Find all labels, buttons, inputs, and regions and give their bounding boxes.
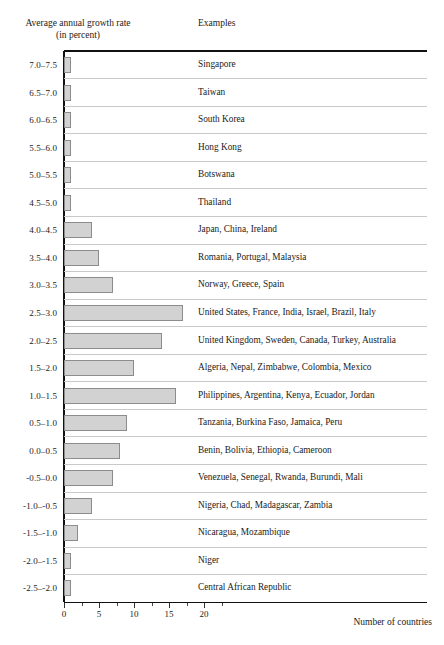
bin-label: 2.0–2.5 <box>0 336 57 346</box>
bin-label: -1.5–-1.0 <box>0 528 57 538</box>
example-countries: Botswana <box>198 169 235 179</box>
bin-label: 2.5–3.0 <box>0 308 57 318</box>
table-row: 5.0–5.5Botswana <box>0 161 444 189</box>
x-tick-major <box>169 603 170 608</box>
example-countries: Singapore <box>198 59 236 69</box>
table-row: 3.5–4.0Romania, Portugal, Malaysia <box>0 244 444 272</box>
table-row: 0.5–1.0Tanzania, Burkina Faso, Jamaica, … <box>0 409 444 437</box>
bin-label: 4.5–5.0 <box>0 198 57 208</box>
x-tick-major <box>99 603 100 608</box>
table-row: 1.0–1.5Philippines, Argentina, Kenya, Ec… <box>0 382 444 410</box>
table-row: -1.0–-0.5Nigeria, Chad, Madagascar, Zamb… <box>0 492 444 520</box>
table-row: 7.0–7.5Singapore <box>0 51 444 79</box>
example-countries: Nigeria, Chad, Madagascar, Zambia <box>198 500 332 510</box>
bin-label: 3.0–3.5 <box>0 280 57 290</box>
bar <box>64 250 99 266</box>
table-row: 0.0–0.5Benin, Bolivia, Ethiopia, Cameroo… <box>0 437 444 465</box>
bar <box>64 470 113 486</box>
bin-label: 0.0–0.5 <box>0 446 57 456</box>
bar <box>64 333 162 349</box>
bar <box>64 415 127 431</box>
x-axis-title: Number of countries <box>353 617 432 627</box>
bar <box>64 222 92 238</box>
example-countries: Benin, Bolivia, Ethiopia, Cameroon <box>198 445 332 455</box>
growth-rate-distribution-figure: Average annual growth rate (in percent) … <box>0 0 444 645</box>
x-tick-label: 15 <box>154 609 184 619</box>
example-countries: Taiwan <box>198 87 225 97</box>
x-tick-minor <box>152 603 153 606</box>
table-row: -1.5–-1.0Nicaragua, Mozambique <box>0 519 444 547</box>
example-countries: Norway, Greece, Spain <box>198 279 284 289</box>
table-row: -2.5–-2.0Central African Republic <box>0 574 444 602</box>
example-countries: Central African Republic <box>198 582 291 592</box>
bin-label: -2.5–-2.0 <box>0 583 57 593</box>
example-countries: Niger <box>198 555 219 565</box>
table-row: -0.5–0.0Venezuela, Senegal, Rwanda, Buru… <box>0 464 444 492</box>
bar <box>64 580 71 596</box>
bin-label: 1.5–2.0 <box>0 363 57 373</box>
bin-label: 3.5–4.0 <box>0 253 57 263</box>
example-countries: United States, France, India, Israel, Br… <box>198 307 376 317</box>
table-row: 2.0–2.5United Kingdom, Sweden, Canada, T… <box>0 327 444 355</box>
bar <box>64 553 71 569</box>
x-tick-minor <box>187 603 188 606</box>
growth-rate-column-header: Average annual growth rate (in percent) <box>8 18 148 41</box>
example-countries: South Korea <box>198 114 245 124</box>
growth-rate-header-line2: (in percent) <box>8 30 148 42</box>
x-axis-line <box>64 602 427 603</box>
example-countries: Romania, Portugal, Malaysia <box>198 252 306 262</box>
bar <box>64 57 71 73</box>
bin-label: 5.0–5.5 <box>0 170 57 180</box>
bar <box>64 443 120 459</box>
bar <box>64 140 71 156</box>
table-row: 5.5–6.0Hong Kong <box>0 134 444 162</box>
x-tick-minor <box>222 603 223 606</box>
x-tick-major <box>204 603 205 608</box>
bin-label: 0.5–1.0 <box>0 418 57 428</box>
bar <box>64 305 183 321</box>
table-row: 6.5–7.0Taiwan <box>0 79 444 107</box>
bar <box>64 277 113 293</box>
bin-label: 4.0–4.5 <box>0 225 57 235</box>
table-row: 6.0–6.5South Korea <box>0 106 444 134</box>
bin-label: -2.0–-1.5 <box>0 556 57 566</box>
example-countries: United Kingdom, Sweden, Canada, Turkey, … <box>198 335 396 345</box>
bar <box>64 85 71 101</box>
x-tick-minor <box>117 603 118 606</box>
example-countries: Thailand <box>198 197 231 207</box>
table-row: 2.5–3.0United States, France, India, Isr… <box>0 299 444 327</box>
bin-label: -1.0–-0.5 <box>0 501 57 511</box>
bin-label: -0.5–0.0 <box>0 473 57 483</box>
bin-label: 1.0–1.5 <box>0 391 57 401</box>
x-tick-minor <box>82 603 83 606</box>
bar <box>64 388 176 404</box>
table-row: 4.0–4.5Japan, China, Ireland <box>0 216 444 244</box>
example-countries: Algeria, Nepal, Zimbabwe, Colombia, Mexi… <box>198 362 372 372</box>
bar <box>64 360 134 376</box>
example-countries: Philippines, Argentina, Kenya, Ecuador, … <box>198 390 375 400</box>
bin-label: 6.0–6.5 <box>0 115 57 125</box>
example-countries: Hong Kong <box>198 142 242 152</box>
bar <box>64 167 71 183</box>
table-row: 4.5–5.0Thailand <box>0 189 444 217</box>
example-countries: Venezuela, Senegal, Rwanda, Burundi, Mal… <box>198 472 363 482</box>
table-row: -2.0–-1.5Niger <box>0 547 444 575</box>
example-countries: Tanzania, Burkina Faso, Jamaica, Peru <box>198 417 342 427</box>
example-countries: Japan, China, Ireland <box>198 224 277 234</box>
x-tick-label: 20 <box>189 609 219 619</box>
bin-label: 6.5–7.0 <box>0 88 57 98</box>
example-countries: Nicaragua, Mozambique <box>198 527 290 537</box>
bar <box>64 498 92 514</box>
examples-column-header: Examples <box>198 18 235 30</box>
bar <box>64 112 71 128</box>
x-tick-label: 10 <box>119 609 149 619</box>
bin-label: 7.0–7.5 <box>0 60 57 70</box>
x-tick-major <box>134 603 135 608</box>
x-tick-label: 5 <box>84 609 114 619</box>
bar <box>64 525 78 541</box>
bar <box>64 195 71 211</box>
x-tick-label: 0 <box>49 609 79 619</box>
x-tick-major <box>64 603 65 608</box>
table-row: 3.0–3.5Norway, Greece, Spain <box>0 271 444 299</box>
growth-rate-header-line1: Average annual growth rate <box>25 18 130 28</box>
